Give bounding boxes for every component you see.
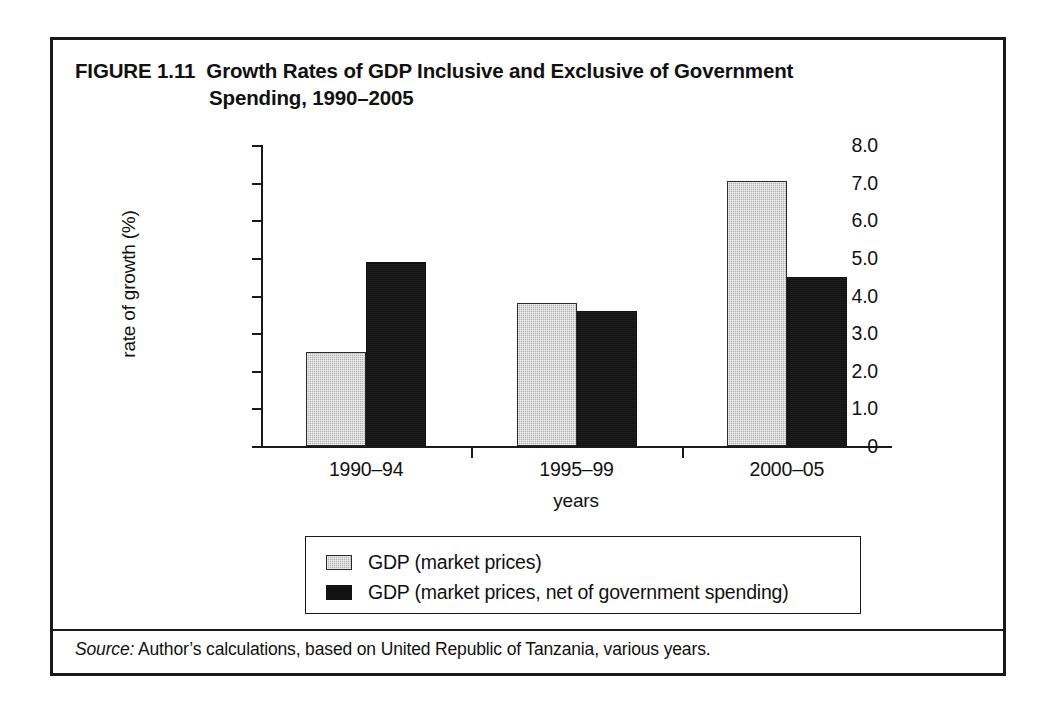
y-axis-tick xyxy=(252,145,261,147)
y-axis-tick xyxy=(252,183,261,185)
x-axis-category-label: 1995–99 xyxy=(539,458,614,481)
y-axis-label: rate of growth (%) xyxy=(118,164,140,404)
legend-label: GDP (market prices, net of government sp… xyxy=(368,581,789,604)
x-axis-category-label: 2000–05 xyxy=(750,458,825,481)
y-axis-tick xyxy=(252,408,261,410)
figure-frame: FIGURE 1.11 Growth Rates of GDP Inclusiv… xyxy=(50,37,1006,676)
legend-swatch-icon xyxy=(326,585,352,600)
bar-0-1 xyxy=(366,262,426,446)
legend-swatch-icon xyxy=(326,555,352,570)
x-axis-tick xyxy=(471,448,473,458)
bar-2-1 xyxy=(787,277,847,446)
y-axis-tick xyxy=(252,446,261,448)
y-axis-tick-label: 6.0 xyxy=(851,212,878,232)
y-axis-tick-label: 3.0 xyxy=(851,324,878,344)
y-axis-tick-label: 5.0 xyxy=(851,249,878,269)
y-axis-tick xyxy=(252,333,261,335)
bar-1-1 xyxy=(577,311,637,446)
bar-2-0 xyxy=(727,181,787,446)
bar-0-0 xyxy=(306,352,366,446)
x-axis-label: years xyxy=(553,490,598,512)
source-divider xyxy=(53,629,1003,631)
y-axis-tick xyxy=(252,258,261,260)
y-axis-tick xyxy=(252,296,261,298)
x-axis-tick xyxy=(682,448,684,458)
bar-1-0 xyxy=(517,303,577,446)
x-axis-spine xyxy=(261,446,892,448)
legend-label: GDP (market prices) xyxy=(368,551,542,574)
chart-legend: GDP (market prices)GDP (market prices, n… xyxy=(305,536,861,614)
y-axis-tick xyxy=(252,220,261,222)
x-axis-category-label: 1990–94 xyxy=(329,458,404,481)
source-label: Source: xyxy=(75,639,134,659)
y-axis-spine xyxy=(261,145,263,448)
chart-axes: 01.02.03.04.05.06.07.08.0 1990–941995–99… xyxy=(261,145,892,448)
legend-item: GDP (market prices, net of government sp… xyxy=(326,579,789,605)
y-axis-tick-label: 4.0 xyxy=(851,287,878,307)
y-axis-tick-label: 7.0 xyxy=(851,174,878,194)
y-axis-tick-label: 1.0 xyxy=(851,400,878,420)
legend-item: GDP (market prices) xyxy=(326,549,542,575)
y-axis-tick xyxy=(252,371,261,373)
y-axis-tick-label: 8.0 xyxy=(851,136,878,156)
y-axis-tick-label: 2.0 xyxy=(851,362,878,382)
y-axis-tick-label: 0 xyxy=(867,437,878,457)
source-text: Author’s calculations, based on United R… xyxy=(134,639,710,659)
source-note: Source: Author’s calculations, based on … xyxy=(75,639,710,660)
